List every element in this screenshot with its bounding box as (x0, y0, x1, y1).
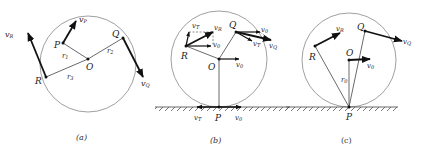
label-v0-Q: v0 (261, 26, 269, 34)
label-R: R (180, 51, 188, 61)
label-vT-R: vT (192, 22, 200, 30)
line-OQ (219, 32, 236, 59)
arrow-v0 (349, 59, 370, 60)
line-PQ (349, 31, 365, 107)
label-v0-P: v0 (235, 114, 243, 122)
rolling-wheel-diagram: vR vP vQ P Q R O r1 r2 r3 (a) (0, 0, 428, 157)
label-R: R (308, 52, 316, 62)
arrow-vQ (365, 31, 402, 41)
label-vR: vR (214, 24, 222, 32)
panel-c: vR vQ v0 Q R O P r0 (c) (286, 13, 411, 145)
label-vT-Q: vT (253, 40, 261, 48)
label-r2: r2 (107, 47, 114, 55)
label-v0: v0 (367, 62, 375, 70)
point-P (348, 106, 351, 109)
label-r1: r1 (62, 52, 69, 60)
arrow-vR (315, 33, 340, 46)
label-vR: vR (336, 25, 344, 33)
label-Q: Q (112, 29, 120, 39)
caption-c: (c) (341, 136, 352, 145)
arrow-vR (28, 33, 46, 77)
label-r0: r0 (341, 76, 348, 84)
label-v0-R: v0 (213, 41, 221, 49)
label-Q: Q (229, 20, 237, 30)
label-O: O (346, 48, 354, 58)
panel-b: Q R O P vT vR v0 v0 vT vQ v0 vT v0 (b) (155, 11, 290, 145)
label-P: P (345, 112, 353, 122)
caption-a: (a) (76, 133, 87, 142)
label-O: O (86, 62, 94, 72)
label-vR: vR (5, 30, 14, 39)
label-vQ: vQ (269, 42, 277, 50)
panel-a: vR vP vQ P Q R O r1 r2 r3 (a) (5, 15, 150, 142)
label-O: O (208, 62, 216, 72)
label-vQ: vQ (403, 38, 411, 46)
label-r3: r3 (67, 73, 74, 81)
label-Q: Q (357, 22, 365, 32)
arrow-vP (63, 21, 76, 43)
radius-r2 (88, 38, 123, 59)
arrow-vQ (123, 38, 143, 77)
arrow-vR (186, 32, 213, 46)
label-R: R (34, 76, 42, 86)
ground-hatch (286, 107, 398, 111)
label-vT-P: vT (194, 114, 202, 122)
label-P: P (53, 40, 61, 50)
label-P: P (214, 113, 222, 123)
caption-b: (b) (210, 136, 221, 145)
label-v0-O: v0 (236, 61, 244, 69)
label-vQ: vQ (141, 79, 150, 88)
point-O (87, 58, 90, 61)
